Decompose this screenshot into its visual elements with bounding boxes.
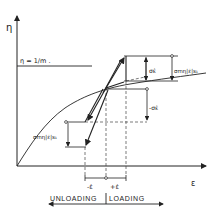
y-axis-label: η xyxy=(6,22,12,33)
loading-label: LOADING xyxy=(109,195,145,202)
diagram-canvas: η ε η = 1/m . σε̇ σmη|ε̇| xyxy=(0,0,216,212)
x-axis-label: ε xyxy=(191,179,195,188)
lower-increment-box xyxy=(65,121,86,147)
response-curve xyxy=(17,73,206,166)
delta-top-right-label: σmη|ε̇|s₁ xyxy=(174,68,198,75)
delta-left-label: σmη|ε̇|s₁ xyxy=(33,134,57,141)
delta-top-label: σε̇ xyxy=(149,67,156,74)
delta-negative-label: -σε̇ xyxy=(149,104,158,111)
upper-increment-box xyxy=(106,55,178,120)
dashed-guides xyxy=(85,77,147,176)
unloading-vectors xyxy=(85,88,108,145)
rate-bracket xyxy=(85,175,126,181)
unloading-label: UNLOADING xyxy=(50,195,97,202)
reference-line-label: η = 1/m . xyxy=(20,57,51,65)
positive-rate-label: +ε̇ xyxy=(110,183,119,191)
negative-rate-label: -ε̇ xyxy=(87,183,93,191)
